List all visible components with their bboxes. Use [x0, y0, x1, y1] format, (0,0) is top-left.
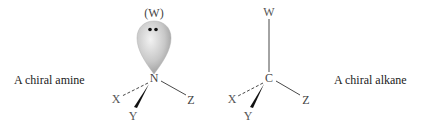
substituent-y: Y	[129, 109, 138, 123]
lone-pair-electron-icon	[154, 28, 158, 32]
wedge-bond-y	[250, 84, 264, 108]
substituent-x: X	[228, 92, 237, 106]
substituent-x: X	[112, 92, 121, 106]
substituent-z: Z	[302, 93, 309, 107]
lone-pair-label: (W)	[144, 6, 163, 20]
dashed-bond-x	[122, 83, 148, 96]
substituent-z: Z	[187, 93, 194, 107]
substituent-y: Y	[244, 109, 253, 123]
bond-z	[161, 81, 186, 95]
alkane-molecule: W C X Y Z	[228, 5, 310, 123]
amine-molecule: (W) N X Y Z	[112, 6, 195, 123]
bond-z	[276, 81, 300, 95]
nitrogen-atom: N	[150, 71, 159, 85]
carbon-atom: C	[265, 71, 273, 85]
wedge-bond-y	[134, 84, 149, 108]
lone-pair-orbital-icon	[137, 21, 171, 74]
diagram-canvas: (W) N X Y Z W C X Y Z	[0, 0, 422, 126]
substituent-w: W	[263, 5, 275, 19]
lone-pair-electron-icon	[148, 28, 152, 32]
